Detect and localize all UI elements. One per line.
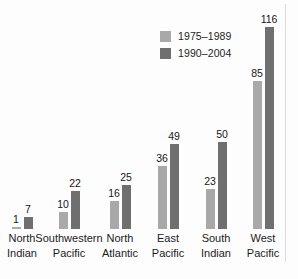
bar-rect [12, 227, 21, 229]
bar-rect [265, 27, 274, 229]
bar-rect [158, 166, 167, 229]
plot-area: 17102216253649235085116 [0, 0, 280, 229]
bar-value-label: 16 [108, 188, 120, 199]
bar-value-label: 22 [69, 178, 81, 189]
bar-rect [170, 144, 179, 229]
bar-value-label: 25 [120, 172, 132, 183]
bar-group: 2350 [206, 0, 227, 229]
bar-group: 85116 [253, 0, 274, 229]
bar-value-label: 50 [216, 129, 228, 140]
bar-rect [206, 189, 215, 229]
bar-value-label: 10 [57, 199, 69, 210]
bar-rect [71, 191, 80, 229]
bar-rect [59, 212, 68, 229]
bar-rect [218, 142, 227, 229]
bar-group: 1625 [110, 0, 131, 229]
bar-chart: 1975–1989 1990–2004 17102216253649235085… [0, 0, 298, 279]
bar-group: 17 [12, 0, 33, 229]
bar-rect [253, 81, 262, 229]
bar-rect [122, 185, 131, 229]
bar-value-label: 85 [251, 68, 263, 79]
bar-rect [110, 201, 119, 229]
bar-value-label: 49 [168, 131, 180, 142]
page-edge-rule [285, 4, 286, 262]
bar-value-label: 116 [261, 14, 278, 25]
bar-value-label: 7 [25, 204, 31, 215]
bar-value-label: 36 [156, 153, 168, 164]
bar-value-label: 1 [13, 214, 19, 225]
category-label: WestPacific [218, 231, 298, 260]
bar-value-label: 23 [204, 176, 216, 187]
bar-rect [24, 217, 33, 229]
bar-group: 3649 [158, 0, 179, 229]
bar-group: 1022 [59, 0, 80, 229]
category-axis: NorthIndianSouthwesternPacificNorthAtlan… [0, 231, 280, 275]
